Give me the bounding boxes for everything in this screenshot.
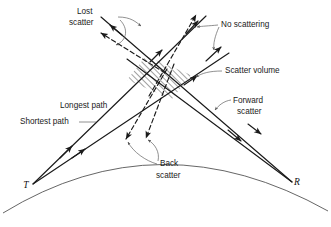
label-lost-scatter-line2: scatter — [69, 18, 94, 27]
label-forward-scatter-line1: Forward — [233, 96, 263, 105]
leader-back-scatter-b — [148, 140, 158, 161]
scatter-volume-region — [127, 56, 191, 99]
label-transmitter-node: T — [23, 180, 29, 190]
label-lost-scatter-line1: Lost — [77, 7, 93, 16]
ray-rx-lower — [127, 59, 292, 182]
arrowhead-tx-shortest — [72, 149, 85, 158]
arrowhead-rx-lower — [248, 124, 261, 134]
arrowhead-no-scatter-upper-left — [110, 25, 122, 35]
label-no-scattering: No scattering — [221, 20, 270, 29]
arrowhead-no-scatter-right-lower — [206, 47, 221, 61]
transmitter-ray-group — [33, 16, 229, 184]
label-receiver-node: R — [293, 177, 300, 187]
label-back-scatter-line2: scatter — [156, 171, 181, 180]
arrowhead-tx-longest — [60, 146, 72, 158]
leader-back-scatter-a — [128, 142, 157, 164]
no-scattering-ray-group — [186, 21, 221, 61]
label-scatter-volume: Scatter volume — [225, 66, 280, 75]
scatter-propagation-diagram: Lost scatter No scattering Scatter volum… — [0, 0, 331, 227]
leader-no-scattering-b — [214, 27, 219, 50]
leader-forward-scatter — [215, 100, 231, 110]
leader-lost-scatter-b — [116, 20, 126, 45]
ray-tx-longest-path — [33, 16, 206, 184]
ray-rx-upper — [101, 17, 292, 182]
ray-lost-scatter-left — [101, 33, 165, 73]
label-back-scatter-line1: Back — [160, 159, 179, 168]
leader-no-scattering-a — [197, 25, 218, 27]
scatter-diagram-figure: Lost scatter No scattering Scatter volum… — [0, 0, 331, 227]
label-shortest-path: Shortest path — [20, 117, 69, 126]
receiver-ray-group — [101, 17, 292, 182]
label-forward-scatter-line2: scatter — [237, 107, 262, 116]
label-longest-path: Longest path — [60, 101, 108, 110]
